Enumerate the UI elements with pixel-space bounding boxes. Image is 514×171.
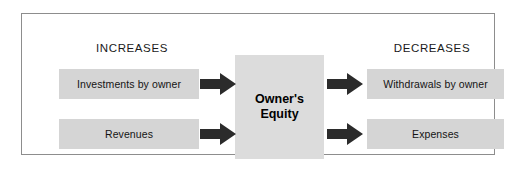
column-heading-increases: INCREASES xyxy=(77,42,187,54)
owners-equity-line-2: Equity xyxy=(260,107,298,122)
diagram-canvas: INCREASES DECREASES Investments by owner… xyxy=(0,0,514,171)
arrow-right-icon-equity-to-expenses xyxy=(327,122,363,146)
box-revenues: Revenues xyxy=(59,119,199,149)
box-investments-by-owner: Investments by owner xyxy=(59,69,199,99)
arrow-right-icon-revenues-to-equity xyxy=(200,122,236,146)
box-expenses: Expenses xyxy=(367,119,504,149)
diagram-frame: INCREASES DECREASES Investments by owner… xyxy=(21,13,495,155)
owners-equity-line-1: Owner's xyxy=(255,92,304,107)
column-heading-decreases: DECREASES xyxy=(377,42,487,54)
arrow-right-icon-equity-to-withdrawals xyxy=(327,72,363,96)
box-owners-equity: Owner's Equity xyxy=(235,55,324,159)
box-withdrawals-by-owner: Withdrawals by owner xyxy=(367,69,504,99)
arrow-right-icon-investments-to-equity xyxy=(200,72,236,96)
